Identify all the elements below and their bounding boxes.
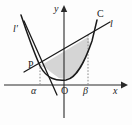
label-beta: β: [83, 86, 88, 96]
label-line-l-prime: l′: [13, 24, 18, 34]
label-line-l: l: [110, 19, 113, 29]
y-axis-arrow-icon: [61, 5, 67, 12]
label-x-axis: x: [113, 86, 117, 96]
label-curve-C: C: [97, 9, 104, 19]
x-axis-arrow-icon: [121, 82, 128, 89]
label-origin: O: [61, 86, 68, 96]
label-y-axis: y: [54, 4, 58, 14]
math-figure: l′ y C l P α O β x: [0, 0, 132, 125]
label-alpha: α: [31, 86, 36, 96]
label-point-P: P: [28, 60, 34, 70]
